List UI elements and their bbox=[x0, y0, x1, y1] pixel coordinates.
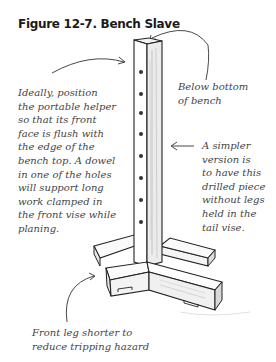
post bbox=[134, 38, 162, 266]
base-front-legs bbox=[106, 262, 250, 315]
arrow-left-note bbox=[52, 59, 124, 73]
bottom-annotation: Front leg shorter to reduce tripping haz… bbox=[32, 326, 149, 353]
top-right-annotation: Below bottom of bench bbox=[178, 80, 248, 107]
left-annotation: Ideally, position the portable helper so… bbox=[18, 86, 116, 236]
right-annotation: A simpler version is to have this drille… bbox=[202, 139, 265, 234]
arrow-bottom-note bbox=[66, 276, 94, 322]
